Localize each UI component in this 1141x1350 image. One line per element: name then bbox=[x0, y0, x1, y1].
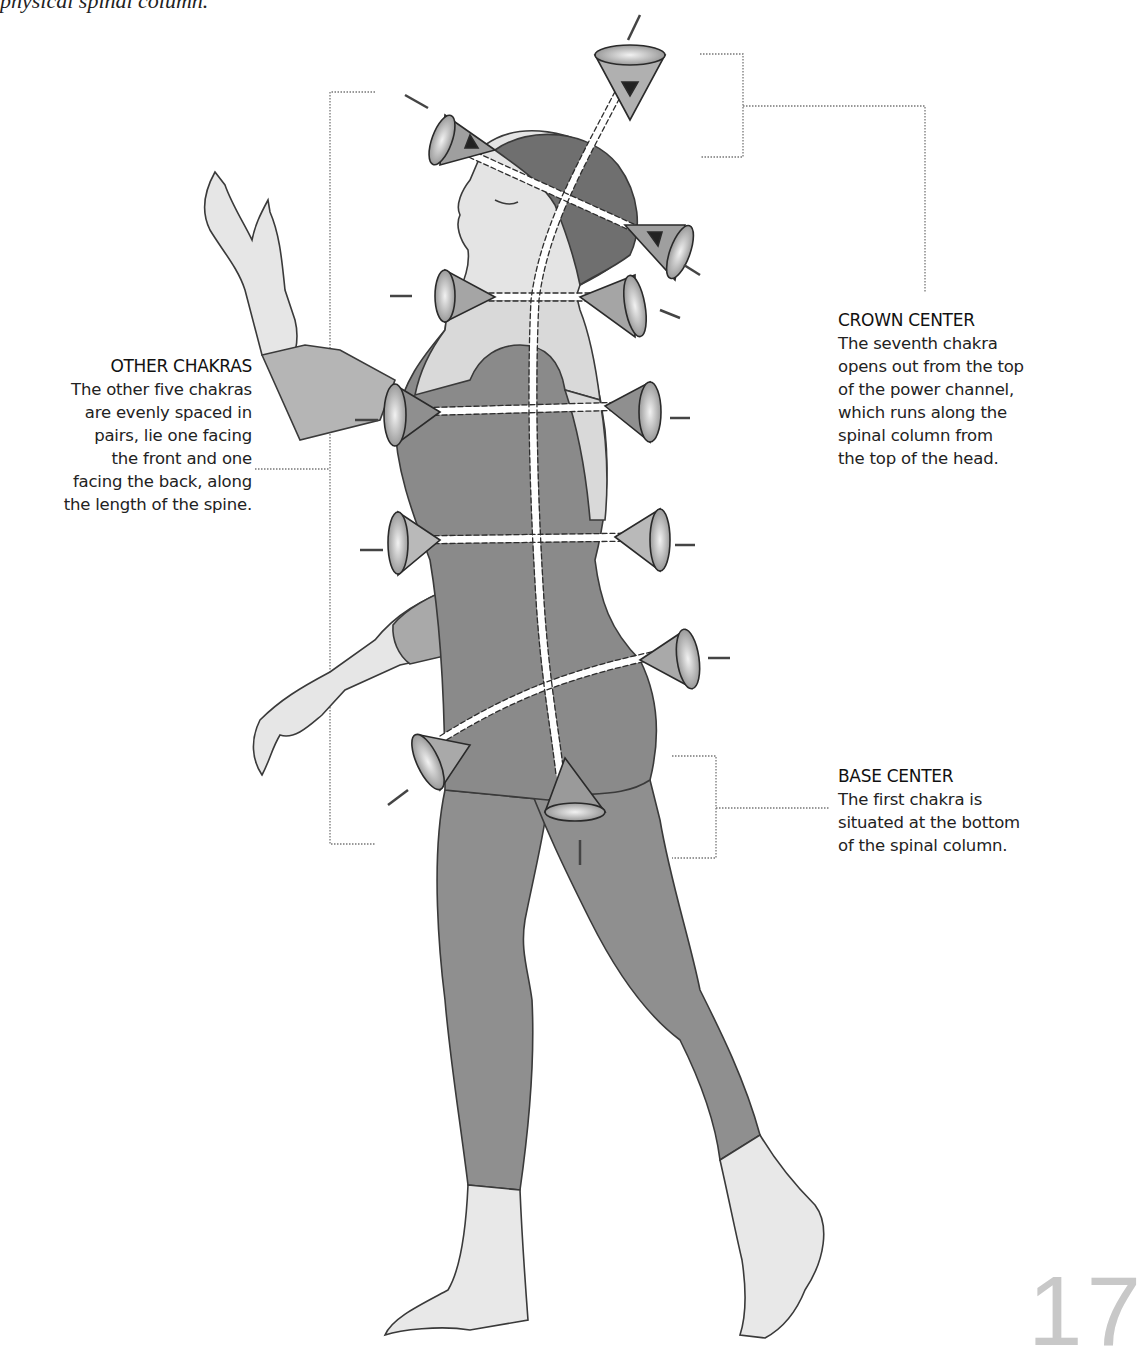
caption-line: the length of the spine. bbox=[0, 493, 252, 516]
caption-line: of the power channel, bbox=[838, 378, 1083, 401]
caption-line: The first chakra is bbox=[838, 788, 1083, 811]
throat-back-cone bbox=[580, 274, 650, 339]
caption-line: spinal column from bbox=[838, 424, 1083, 447]
solar-back-cone bbox=[615, 509, 670, 571]
caption-line: situated at the bottom bbox=[838, 811, 1083, 834]
caption-line: the front and one bbox=[0, 447, 252, 470]
caption-line: The other five chakras bbox=[0, 378, 252, 401]
caption-line: the top of the head. bbox=[838, 447, 1083, 470]
caption-line: pairs, lie one facing bbox=[0, 424, 252, 447]
caption-heading: CROWN CENTER bbox=[838, 309, 1083, 332]
caption-base-center: BASE CENTER The first chakra is situated… bbox=[838, 765, 1083, 857]
brow-back-cone bbox=[625, 222, 699, 281]
caption-other-chakras: OTHER CHAKRAS The other five chakras are… bbox=[0, 355, 252, 516]
caption-line: are evenly spaced in bbox=[0, 401, 252, 424]
heart-back-cone bbox=[605, 382, 661, 442]
caption-line: which runs along the bbox=[838, 401, 1083, 424]
caption-heading: OTHER CHAKRAS bbox=[0, 355, 252, 378]
page-number: 17 bbox=[1028, 1262, 1141, 1350]
sacral-back-cone bbox=[640, 628, 703, 690]
caption-crown-center: CROWN CENTER The seventh chakra opens ou… bbox=[838, 309, 1083, 470]
caption-line: The seventh chakra bbox=[838, 332, 1083, 355]
caption-line: opens out from the top bbox=[838, 355, 1083, 378]
caption-line: facing the back, along bbox=[0, 470, 252, 493]
legs bbox=[385, 760, 824, 1338]
caption-line: of the spinal column. bbox=[838, 834, 1083, 857]
caption-heading: BASE CENTER bbox=[838, 765, 1083, 788]
